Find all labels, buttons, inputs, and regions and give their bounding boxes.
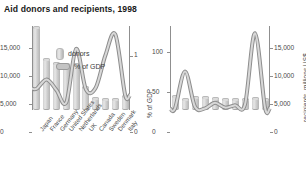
axis-tick-label: 15,000	[274, 45, 294, 52]
axis-tick-label: 1	[134, 52, 138, 59]
legend-label-gdp: % of GDP	[74, 63, 105, 70]
axis-tick-label: 10,000	[0, 73, 27, 80]
axis-tick-label: 10,000	[274, 73, 294, 80]
axis-tick-label: 0	[0, 129, 27, 136]
axis-tick	[167, 52, 170, 53]
recipients-plot-area	[170, 26, 270, 110]
axis-tick	[29, 48, 32, 49]
bar-icon	[56, 48, 64, 60]
axis-tick	[270, 48, 273, 49]
recipients-chart-panel: 050100 05,00010,00015,000 recipients, mi…	[152, 22, 306, 118]
axis-tick-label: 0	[134, 129, 138, 136]
page-title: Aid donors and recipients, 1998	[4, 4, 137, 14]
axis-tick	[130, 56, 133, 57]
donors-x-axis-labels: JapanFranceGermanyUnited StatesNetherlan…	[32, 128, 130, 177]
recipients-y-right-title: recipients, millions US$	[302, 53, 306, 122]
axis-tick	[167, 92, 170, 93]
recipients-gdp-line	[170, 26, 270, 110]
legend-item-gdp: % of GDP	[56, 61, 105, 72]
axis-tick-label: 100	[152, 49, 163, 56]
donors-chart-panel: 05,00010,00015,000 01 % of GDP donors % …	[0, 22, 152, 118]
legend-item-donors: donors	[56, 48, 105, 59]
axis-tick	[270, 132, 273, 133]
axis-tick	[29, 104, 32, 105]
line-icon	[56, 63, 70, 70]
legend-label-donors: donors	[68, 50, 89, 57]
donors-legend: donors % of GDP	[56, 48, 105, 74]
axis-tick	[270, 104, 273, 105]
axis-tick-label: 5,000	[0, 101, 27, 108]
axis-tick-label: 5,000	[274, 101, 291, 108]
axis-tick-label: 0	[274, 129, 278, 136]
axis-tick	[167, 132, 170, 133]
axis-tick	[29, 76, 32, 77]
axis-tick-label: 0	[152, 129, 156, 136]
axis-tick-label: 15,000	[0, 45, 27, 52]
axis-tick	[270, 76, 273, 77]
axis-tick-label: 50	[152, 89, 159, 96]
